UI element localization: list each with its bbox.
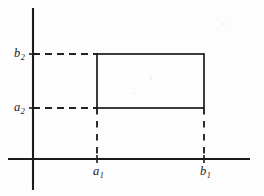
axis-label-a2-base: a bbox=[14, 100, 20, 114]
axis-label-b1-subscript: 1 bbox=[207, 171, 211, 180]
coordinate-rectangle-figure: b2 a2 a1 b1 bbox=[0, 0, 264, 196]
axis-label-a2-subscript: 2 bbox=[21, 107, 25, 116]
axis-label-a1: a1 bbox=[93, 165, 104, 178]
axis-label-b2-subscript: 2 bbox=[21, 53, 25, 62]
axis-label-a1-base: a bbox=[93, 164, 99, 178]
region-rectangle bbox=[97, 54, 204, 108]
axis-label-b1: b1 bbox=[200, 165, 211, 178]
axis-label-a2: a2 bbox=[14, 101, 25, 114]
axis-label-b2-base: b bbox=[14, 46, 20, 60]
axis-label-b2: b2 bbox=[14, 47, 25, 60]
axis-label-a1-subscript: 1 bbox=[100, 171, 104, 180]
axis-label-b1-base: b bbox=[200, 164, 206, 178]
figure-canvas bbox=[0, 0, 264, 196]
